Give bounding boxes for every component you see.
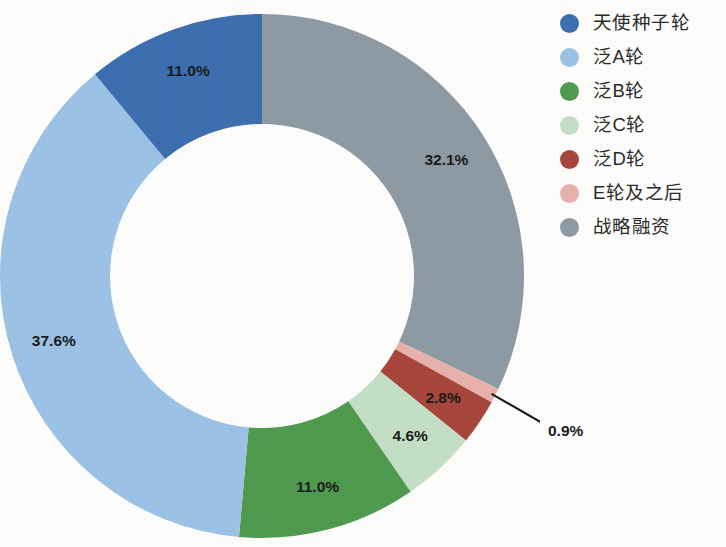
slice-value-label: 37.6% (32, 332, 76, 349)
slice-value-label: 4.6% (393, 427, 429, 444)
legend-swatch-icon (560, 218, 579, 237)
legend-item-label: 泛D轮 (593, 150, 646, 169)
legend-item-label: 天使种子轮 (593, 14, 690, 33)
callout-label-round-e: 0.9% (548, 422, 584, 439)
legend-swatch-icon (560, 82, 579, 101)
slice-value-label: 11.0% (296, 478, 339, 495)
legend-item-label: 泛C轮 (593, 116, 646, 135)
legend-item-label: 泛B轮 (593, 82, 645, 101)
legend-swatch-icon (560, 116, 579, 135)
chart-plot-area: 32.1%2.8%4.6%11.0%37.6%11.0% (0, 0, 540, 547)
callout-label-svg: 0.9% (478, 398, 668, 458)
slice-value-label: 2.8% (425, 389, 461, 406)
legend-item-label: E轮及之后 (593, 184, 683, 203)
donut-slice-group (0, 14, 524, 538)
legend-swatch-icon (560, 14, 579, 33)
slice-value-label: 11.0% (167, 62, 210, 79)
donut-chart-svg: 32.1%2.8%4.6%11.0%37.6%11.0% (0, 0, 540, 547)
legend-item[interactable]: E轮及之后 (560, 176, 726, 210)
legend-item[interactable]: 天使种子轮 (560, 6, 726, 40)
legend-item-label: 战略融资 (593, 218, 671, 237)
legend-item[interactable]: 泛C轮 (560, 108, 726, 142)
legend-item-label: 泛A轮 (593, 48, 645, 67)
legend-item[interactable]: 战略融资 (560, 210, 726, 244)
legend-item[interactable]: 泛B轮 (560, 74, 726, 108)
legend-item[interactable]: 泛D轮 (560, 142, 726, 176)
slice-value-label: 32.1% (424, 151, 468, 168)
donut-chart-figure: 32.1%2.8%4.6%11.0%37.6%11.0% 0.9% 天使种子轮泛… (0, 0, 726, 547)
donut-slice[interactable] (0, 74, 249, 537)
legend-swatch-icon (560, 184, 579, 203)
legend-swatch-icon (560, 48, 579, 67)
legend-swatch-icon (560, 150, 579, 169)
donut-slice[interactable] (262, 14, 524, 389)
chart-legend: 天使种子轮泛A轮泛B轮泛C轮泛D轮E轮及之后战略融资 (560, 6, 726, 244)
legend-item[interactable]: 泛A轮 (560, 40, 726, 74)
